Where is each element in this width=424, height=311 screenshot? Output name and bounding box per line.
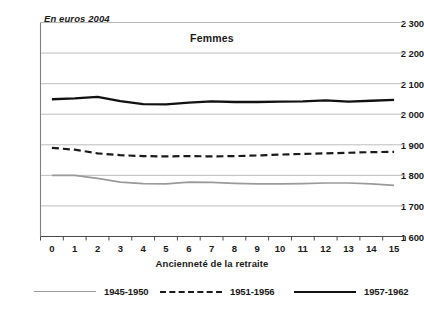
x-axis-tick-label: 13 (337, 243, 359, 254)
x-axis-tick-label: 0 (41, 243, 63, 254)
x-axis-tick-label: 1 (64, 243, 86, 254)
legend-label: 1957-1962 (364, 286, 409, 297)
thin-gray-line-icon (34, 286, 96, 296)
x-axis-tick-label: 7 (201, 243, 223, 254)
chart-figure: En euros 2004 Femmes 2 3002 2002 1002 00… (0, 0, 424, 311)
x-axis-tick-label: 12 (315, 243, 337, 254)
x-axis-tick-label: 11 (292, 243, 314, 254)
x-axis-tick-label: 14 (360, 243, 382, 254)
series-line-1957-1962 (52, 97, 394, 105)
axis-frame (41, 23, 406, 237)
legend-item-1951-1956: 1951-1956 (150, 286, 276, 297)
series-line-1945-1950 (52, 175, 394, 185)
legend-item-1957-1962: 1957-1962 (276, 286, 410, 297)
x-axis-tick-label: 15 (383, 243, 405, 254)
x-axis-ticks (41, 237, 406, 241)
x-axis-tick-label: 3 (109, 243, 131, 254)
dashed-black-line-icon (160, 286, 222, 296)
data-series-layer (52, 97, 394, 186)
x-axis-tick-label: 10 (269, 243, 291, 254)
legend-label: 1945-1950 (104, 286, 149, 297)
series-line-1951-1956 (52, 148, 394, 157)
chart-title: Femmes (0, 32, 424, 44)
x-axis-title: Ancienneté de la retraite (0, 258, 424, 269)
thick-black-line-icon (294, 286, 356, 296)
x-axis-tick-label: 5 (155, 243, 177, 254)
chart-unit-note: En euros 2004 (44, 13, 110, 24)
x-axis-tick-label: 2 (87, 243, 109, 254)
x-axis-tick-label: 4 (132, 243, 154, 254)
legend-label: 1951-1956 (230, 286, 275, 297)
x-axis-tick-label: 8 (223, 243, 245, 254)
chart-legend: 1945-1950 1951-1956 1957-1962 (34, 283, 410, 299)
x-axis-tick-label: 6 (178, 243, 200, 254)
x-axis-tick-label: 9 (246, 243, 268, 254)
legend-item-1945-1950: 1945-1950 (34, 286, 150, 297)
